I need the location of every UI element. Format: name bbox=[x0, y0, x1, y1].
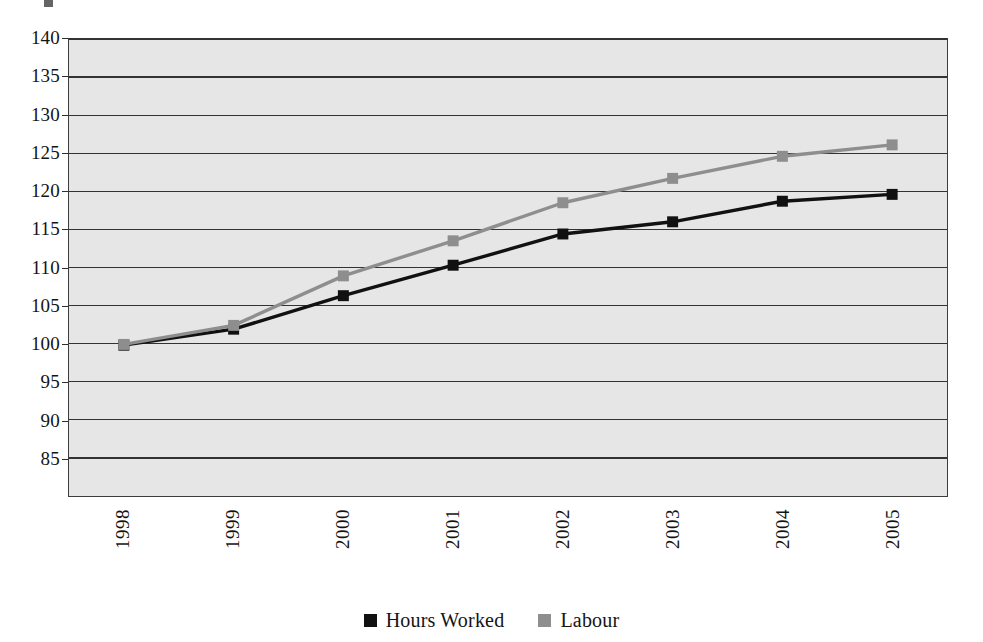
chart-legend: Hours WorkedLabour bbox=[0, 604, 983, 636]
line-chart: 140135130125120115110105100959085 Hours … bbox=[0, 0, 983, 642]
plot-area: Hours Worked 1998: 99.8Hours Worked 1999… bbox=[68, 38, 948, 497]
y-tick-label: 85 bbox=[4, 449, 60, 468]
y-axis: 140135130125120115110105100959085 bbox=[0, 0, 60, 642]
legend-swatch-labour bbox=[538, 614, 551, 627]
legend-label: Labour bbox=[560, 610, 619, 630]
data-point-marker: Hours Worked 2003: 116 bbox=[667, 216, 678, 227]
legend-entry[interactable]: Labour bbox=[538, 610, 619, 630]
y-tick-label: 135 bbox=[4, 66, 60, 85]
y-tick-label: 90 bbox=[4, 411, 60, 430]
x-tick-label: 2000 bbox=[333, 509, 352, 549]
series-labour: Labour 1998: 99.9Labour 1999: 102.4Labou… bbox=[118, 139, 897, 349]
data-point-marker: Hours Worked 2005: 119.6 bbox=[887, 189, 898, 200]
x-tick-label: 1998 bbox=[113, 509, 132, 549]
data-point-marker: Labour 2002: 118.5 bbox=[557, 197, 568, 208]
x-tick-label: 2002 bbox=[553, 509, 572, 549]
y-tick-label: 110 bbox=[4, 258, 60, 277]
data-point-marker: Labour 2003: 121.7 bbox=[667, 173, 678, 184]
y-tick-label: 120 bbox=[4, 181, 60, 200]
x-tick-label: 2004 bbox=[773, 509, 792, 549]
x-tick-label: 2003 bbox=[663, 509, 682, 549]
y-tick-label: 95 bbox=[4, 372, 60, 391]
data-point-marker: Labour 2000: 108.9 bbox=[338, 270, 349, 281]
data-point-marker: Hours Worked 2000: 106.3 bbox=[338, 290, 349, 301]
y-tick-label: 115 bbox=[4, 219, 60, 238]
data-series-layer: Hours Worked 1998: 99.8Hours Worked 1999… bbox=[69, 39, 947, 496]
y-tick-label: 140 bbox=[4, 28, 60, 47]
x-tick-label: 1999 bbox=[223, 509, 242, 549]
data-point-marker: Hours Worked 2004: 118.7 bbox=[777, 196, 788, 207]
x-tick-label: 2001 bbox=[443, 509, 462, 549]
x-tick-label: 2005 bbox=[883, 509, 902, 549]
legend-swatch-hours-worked bbox=[364, 614, 377, 627]
y-tick-label: 105 bbox=[4, 296, 60, 315]
y-tick-label: 125 bbox=[4, 143, 60, 162]
legend-entry[interactable]: Hours Worked bbox=[364, 610, 505, 630]
data-point-marker: Hours Worked 2002: 114.4 bbox=[557, 229, 568, 240]
data-point-marker: Hours Worked 2001: 110.3 bbox=[448, 260, 459, 271]
y-tick-label: 100 bbox=[4, 334, 60, 353]
data-point-marker: Labour 2004: 124.6 bbox=[777, 151, 788, 162]
data-point-marker: Labour 2001: 113.5 bbox=[448, 235, 459, 246]
legend-label: Hours Worked bbox=[386, 610, 505, 630]
y-tick-label: 130 bbox=[4, 105, 60, 124]
data-point-marker: Labour 2005: 126.1 bbox=[887, 139, 898, 150]
x-axis: 19981999200020012002200320042005 bbox=[68, 497, 948, 597]
data-point-marker: Labour 1999: 102.4 bbox=[228, 320, 239, 331]
series-line bbox=[124, 145, 892, 345]
data-point-marker: Labour 1998: 99.9 bbox=[118, 339, 129, 350]
